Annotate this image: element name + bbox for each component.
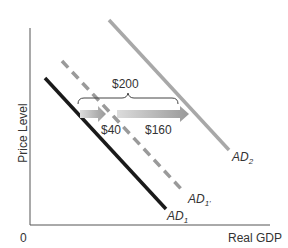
arrow-large-label: $160 <box>145 123 172 137</box>
ad2-label-sub: 2 <box>249 157 253 166</box>
ad2-label-main: AD <box>232 150 249 164</box>
ad2-label: AD2 <box>232 150 253 166</box>
brace-total-label: $200 <box>112 77 139 91</box>
ad1-label-sub: 1 <box>184 216 188 225</box>
ad1-prime-label-main: AD <box>188 192 205 206</box>
ad1-label-main: AD <box>167 209 184 223</box>
arrow-160 <box>117 106 189 122</box>
ad-shift-diagram <box>0 0 288 248</box>
origin-label: 0 <box>20 231 27 245</box>
x-axis-label: Real GDP <box>228 231 282 245</box>
ad1-label: AD1 <box>167 209 188 225</box>
ad1-prime-label: AD1' <box>188 192 211 208</box>
arrow-small-label: $40 <box>101 123 121 137</box>
ad1-prime-label-sub: 1' <box>205 199 211 208</box>
y-axis-label: Price Level <box>16 98 30 168</box>
